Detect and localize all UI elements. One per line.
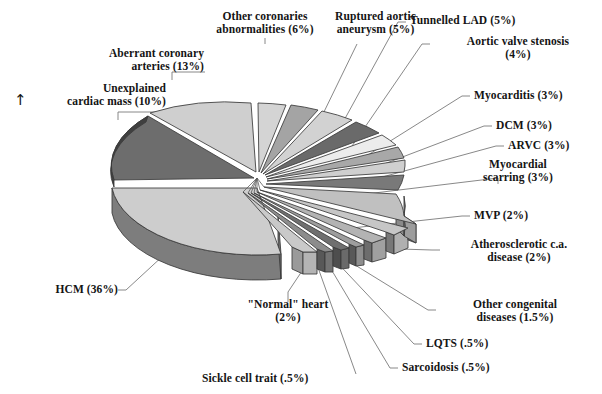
- label-myocarditis: Myocarditis (3%): [474, 89, 602, 102]
- label-unexplained-cardiac-mass: Unexplained cardiac mass (10%): [6, 82, 166, 108]
- label-myocardial-scarring: Myocardial scarring (3%): [458, 158, 578, 184]
- label-lqts: LQTS (.5%): [426, 337, 546, 350]
- slice-lqts-wall-front: [356, 245, 364, 266]
- label-other-congenital-diseases: Other congenital diseases (1.5%): [440, 298, 590, 324]
- slice-sarcoid-wall: [333, 247, 341, 269]
- pie-geometry: [111, 102, 416, 280]
- label-sarcoidosis: Sarcoidosis (.5%): [402, 361, 552, 374]
- slice-sickle-wall-front: [325, 251, 333, 272]
- label-aberrant-coronary-arteries: Aberrant coronary arteries (13%): [54, 47, 204, 73]
- label-atherosclerotic-disease: Atherosclerotic c.a. disease (2%): [444, 238, 594, 264]
- leader-tunnelled: [342, 22, 406, 124]
- pie-chart-figure: Unexplained cardiac mass (10%) ↑ Aberran…: [0, 0, 602, 394]
- label-hcm: HCM (36%): [8, 283, 118, 296]
- slice-scarring-top: [266, 175, 404, 190]
- up-arrow-icon: ↑: [14, 93, 27, 108]
- label-aortic-valve-stenosis: Aortic valve stenosis (4%): [438, 35, 598, 61]
- label-dcm: DCM (3%): [496, 119, 596, 132]
- slice-sarcoid-wall-front: [341, 248, 349, 269]
- slice-normal-wall-front: [303, 252, 317, 274]
- label-arvc: ARVC (3%): [508, 139, 602, 152]
- slice-athero-wall: [386, 232, 394, 254]
- leader-myocarditis: [360, 96, 470, 160]
- slice-sickle-wall: [317, 249, 325, 272]
- slice-congenital-wall: [364, 240, 372, 262]
- slice-lqts-wall: [349, 244, 356, 266]
- label-normal-heart: "Normal" heart (2%): [228, 298, 348, 324]
- label-tunnelled-lad: Tunnelled LAD (5%): [410, 14, 590, 27]
- label-sickle-cell-trait: Sickle cell trait (.5%): [202, 372, 362, 385]
- label-mvp: MVP (2%): [474, 209, 574, 222]
